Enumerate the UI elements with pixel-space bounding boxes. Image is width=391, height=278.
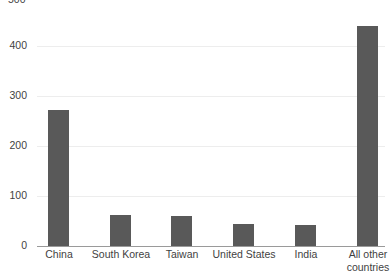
bar-all-other-countries[interactable]: [357, 26, 378, 246]
y-axis-tick-300: 300: [0, 90, 27, 101]
y-axis-tick-200: 200: [0, 140, 27, 151]
bar-south-korea[interactable]: [110, 215, 131, 246]
bar-series: [37, 0, 385, 246]
source-caption-clipped: [0, 270, 391, 278]
x-axis-label-all-other-countries-line1: All other: [331, 248, 391, 261]
bar-chart: 500 400 400 300 200 100 0 China South Ko…: [0, 0, 391, 278]
y-axis-tick-100: 100: [0, 190, 27, 201]
y-axis-tick-400: 400: [0, 0, 27, 1]
y-axis-tick-400-label: 400: [0, 40, 27, 51]
bar-china[interactable]: [48, 110, 69, 246]
axis-baseline: [37, 246, 385, 247]
bar-india[interactable]: [295, 225, 316, 246]
bar-united-states[interactable]: [233, 224, 254, 246]
bar-taiwan[interactable]: [171, 216, 192, 246]
